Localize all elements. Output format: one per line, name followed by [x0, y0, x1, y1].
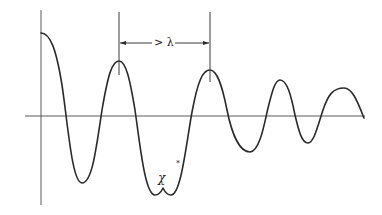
wave-curve [41, 33, 364, 195]
arrowhead-right-icon [203, 41, 209, 45]
arrowhead-left-icon [120, 41, 126, 45]
trough-chi-label: χ [158, 172, 165, 184]
damped-wave-diagram [0, 0, 382, 215]
wavelength-label: > λ [153, 37, 175, 48]
asterisk-marker: * [176, 160, 180, 168]
